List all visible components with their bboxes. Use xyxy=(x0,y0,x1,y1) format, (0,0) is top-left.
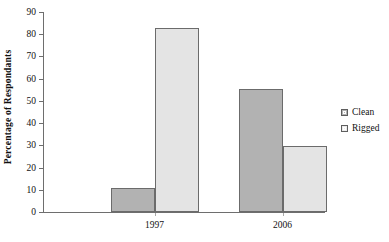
bar-2006-rigged xyxy=(283,146,327,212)
y-tick-mark xyxy=(39,212,43,213)
y-tick-mark xyxy=(39,123,43,124)
y-tick-label: 80 xyxy=(27,29,37,39)
y-tick-label: 0 xyxy=(31,207,36,217)
legend-item-rigged[interactable]: Rigged xyxy=(341,120,389,136)
legend-item-clean[interactable]: Clean xyxy=(341,104,389,120)
y-tick-mark xyxy=(39,12,43,13)
y-tick-mark xyxy=(39,101,43,102)
y-axis-title-text: Percentage of Respondants xyxy=(3,49,13,164)
legend-label: Rigged xyxy=(352,123,379,133)
y-tick-mark xyxy=(39,168,43,169)
legend-label: Clean xyxy=(352,107,374,117)
x-category-label-1997: 1997 xyxy=(145,220,164,230)
y-tick-mark xyxy=(39,145,43,146)
y-tick-mark xyxy=(39,34,43,35)
y-tick-label: 20 xyxy=(27,163,37,173)
y-axis-title: Percentage of Respondants xyxy=(0,0,16,213)
y-tick-mark xyxy=(39,56,43,57)
y-tick-mark xyxy=(39,79,43,80)
y-tick-label: 50 xyxy=(27,96,37,106)
bar-1997-clean xyxy=(111,188,155,212)
y-tick-label: 40 xyxy=(27,118,37,128)
y-tick-label: 90 xyxy=(27,7,37,17)
y-tick-label: 30 xyxy=(27,140,37,150)
x-tick-mark xyxy=(283,213,284,216)
plot-area: 0102030405060708090 19972006 xyxy=(43,12,325,213)
bar-chart-figure: Percentage of Respondants 01020304050607… xyxy=(0,0,389,242)
y-tick-label: 60 xyxy=(27,74,37,84)
y-tick-mark xyxy=(39,190,43,191)
legend-swatch-icon xyxy=(341,109,348,116)
y-tick-label: 70 xyxy=(27,51,37,61)
x-category-label-2006: 2006 xyxy=(273,220,292,230)
x-tick-mark xyxy=(155,213,156,216)
bar-1997-rigged xyxy=(155,28,199,212)
legend-swatch-icon xyxy=(341,125,348,132)
chart-legend: CleanRigged xyxy=(341,104,389,136)
bar-2006-clean xyxy=(239,89,283,212)
y-axis-line xyxy=(43,12,44,213)
y-tick-label: 10 xyxy=(27,185,37,195)
